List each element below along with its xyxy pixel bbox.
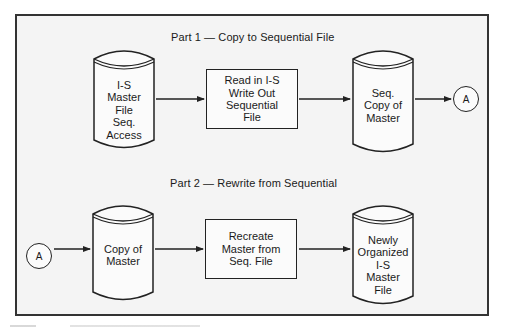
cropped-caption-remnant [10,325,210,327]
flow-arrows [0,0,507,332]
